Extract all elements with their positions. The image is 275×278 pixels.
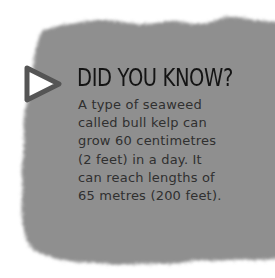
body-line: (2 feet) in a day. It <box>78 151 268 169</box>
body-line: called bull kelp can <box>78 114 268 132</box>
body-line: grow 60 centimetres <box>78 132 268 150</box>
body-line: 65 metres (200 feet). <box>78 187 268 205</box>
body-line: can reach lengths of <box>78 169 268 187</box>
callout-body: A type of seaweed called bull kelp can g… <box>78 96 268 205</box>
body-line: A type of seaweed <box>78 96 268 114</box>
callout-heading: DID YOU KNOW? <box>77 64 233 92</box>
triangle-pointer-icon <box>22 63 64 105</box>
